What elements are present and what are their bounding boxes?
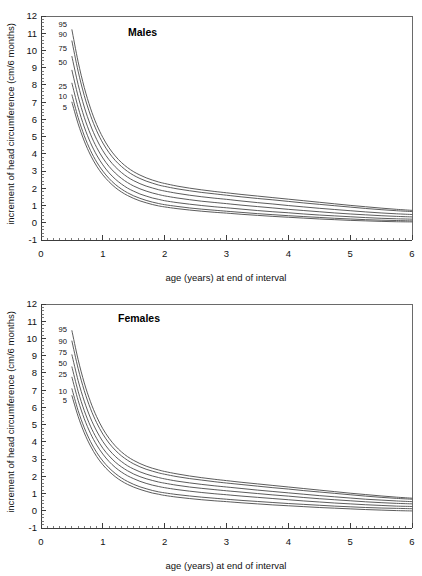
x-axis-title-males: age (years) at end of interval [166, 272, 287, 283]
percentile-label-95: 95 [59, 325, 67, 334]
percentile-labels-males: 9590755025105 [59, 20, 67, 113]
x-tick-label: 3 [224, 248, 229, 259]
percentile-curve-90 [72, 41, 412, 212]
y-tick-label: 1 [32, 200, 37, 211]
panel-title-males: Males [128, 26, 157, 38]
x-tick-label: 5 [348, 248, 353, 259]
percentile-label-10: 10 [59, 387, 67, 396]
y-tick-label: 11 [27, 316, 37, 327]
y-tick-label: -1 [29, 522, 37, 533]
percentile-curve-5 [72, 102, 412, 222]
percentile-curve-10 [72, 95, 412, 221]
percentile-curve-25 [72, 377, 412, 506]
percentile-curve-75 [72, 56, 412, 214]
y-tick-label: 8 [32, 79, 37, 90]
percentile-label-90: 90 [59, 30, 67, 39]
x-tick-label: 4 [286, 248, 291, 259]
percentile-curve-95 [72, 30, 412, 211]
percentile-curve-75 [72, 355, 412, 502]
x-tick-label: 0 [38, 536, 43, 547]
y-tick-label: 12 [26, 10, 37, 21]
x-tick-label: 1 [100, 536, 105, 547]
y-tick-label: 4 [32, 148, 37, 159]
y-tick-label: 5 [32, 131, 37, 142]
curves-females [72, 331, 412, 511]
percentile-curve-25 [72, 83, 412, 219]
x-axis-title-females: age (years) at end of interval [166, 560, 287, 571]
x-tick-label: 2 [162, 536, 167, 547]
y-tick-label: 7 [32, 97, 37, 108]
y-tick-label: 1 [32, 488, 37, 499]
chart-svg-males: 0123456 -10123456789101112 9590755025105… [0, 0, 422, 288]
percentile-label-50: 50 [59, 58, 67, 67]
percentile-curve-50 [72, 367, 412, 504]
percentile-label-10: 10 [59, 92, 67, 101]
percentile-label-25: 25 [59, 370, 67, 379]
percentile-labels-females: 9590755025105 [59, 325, 67, 406]
x-tick-label: 0 [38, 248, 43, 259]
x-axis-males: 0123456 [38, 235, 414, 259]
y-tick-label: 7 [32, 385, 37, 396]
y-tick-label: -1 [29, 234, 37, 245]
y-axis-males: -10123456789101112 [26, 10, 46, 245]
y-tick-label: 9 [32, 62, 37, 73]
y-axis-title-females: increment of head circumference (cm/6 mo… [5, 311, 16, 513]
y-tick-label: 8 [32, 367, 37, 378]
y-axis-females: -10123456789101112 [26, 298, 46, 533]
percentile-label-90: 90 [59, 337, 67, 346]
percentile-label-50: 50 [59, 359, 67, 368]
x-tick-label: 3 [224, 536, 229, 547]
y-tick-label: 9 [32, 350, 37, 361]
y-tick-label: 5 [32, 419, 37, 430]
x-tick-label: 2 [162, 248, 167, 259]
y-tick-label: 3 [32, 165, 37, 176]
percentile-label-5: 5 [63, 396, 67, 405]
percentile-label-25: 25 [59, 82, 67, 91]
plot-frame-males [41, 16, 412, 240]
y-tick-label: 2 [32, 183, 37, 194]
chart-panel-males: 0123456 -10123456789101112 9590755025105… [0, 0, 422, 288]
chart-panel-females: 0123456 -10123456789101112 9590755025105… [0, 288, 422, 576]
percentile-label-5: 5 [63, 103, 67, 112]
y-tick-label: 11 [27, 28, 37, 39]
panel-title-females: Females [118, 312, 160, 324]
y-tick-label: 6 [32, 402, 37, 413]
y-tick-label: 6 [32, 114, 37, 125]
x-tick-label: 5 [348, 536, 353, 547]
percentile-label-75: 75 [59, 348, 67, 357]
percentile-label-95: 95 [59, 20, 67, 29]
y-tick-label: 12 [26, 298, 37, 309]
y-tick-label: 2 [32, 471, 37, 482]
y-tick-label: 4 [32, 436, 37, 447]
x-tick-label: 6 [409, 248, 414, 259]
y-tick-label: 10 [26, 333, 37, 344]
curves-males [72, 30, 412, 222]
y-tick-label: 0 [32, 217, 37, 228]
chart-svg-females: 0123456 -10123456789101112 9590755025105… [0, 288, 422, 576]
y-tick-label: 0 [32, 505, 37, 516]
x-tick-label: 1 [100, 248, 105, 259]
y-tick-label: 10 [26, 45, 37, 56]
figure-page: 0123456 -10123456789101112 9590755025105… [0, 0, 422, 576]
percentile-curve-10 [72, 389, 412, 509]
x-tick-label: 4 [286, 536, 291, 547]
y-tick-label: 3 [32, 453, 37, 464]
y-axis-title-males: increment of head circumference (cm/6 mo… [5, 23, 16, 225]
x-axis-females: 0123456 [38, 523, 414, 547]
percentile-curve-90 [72, 341, 412, 499]
percentile-label-75: 75 [59, 44, 67, 53]
x-tick-label: 6 [409, 536, 414, 547]
